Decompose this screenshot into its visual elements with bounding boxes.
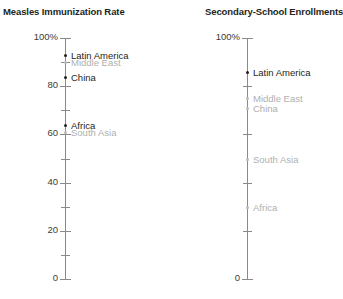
y-axis-tick-label: 0 bbox=[5, 273, 58, 283]
chart-panel-measles-immunization: Measles Immunization Rate 100%806040200L… bbox=[0, 0, 163, 299]
chart-title-measles-immunization: Measles Immunization Rate bbox=[3, 6, 125, 17]
y-axis-tick-label: 80 bbox=[5, 80, 58, 90]
y-axis-tick bbox=[60, 279, 71, 280]
y-axis-tick-label: 0 bbox=[187, 273, 240, 283]
y-axis-minor-tick bbox=[61, 255, 70, 256]
data-point-label: South Asia bbox=[71, 128, 116, 138]
data-point-marker[interactable] bbox=[64, 124, 67, 127]
data-point-marker[interactable] bbox=[246, 107, 249, 110]
y-axis-minor-tick bbox=[243, 183, 252, 184]
y-axis-tick bbox=[60, 38, 71, 39]
data-point-marker[interactable] bbox=[64, 61, 67, 64]
y-axis-minor-tick bbox=[243, 86, 252, 87]
chart-title-secondary-school-enrollments: Secondary-School Enrollments bbox=[205, 6, 343, 17]
data-point-marker[interactable] bbox=[246, 71, 249, 74]
y-axis-tick bbox=[60, 86, 71, 87]
data-point-label: Africa bbox=[253, 203, 277, 213]
data-point-marker[interactable] bbox=[64, 76, 67, 79]
y-axis-minor-tick bbox=[243, 134, 252, 135]
y-axis-tick bbox=[60, 134, 71, 135]
y-axis-tick-label: 20 bbox=[5, 225, 58, 235]
data-point-marker[interactable] bbox=[246, 206, 249, 209]
y-axis-minor-tick bbox=[61, 159, 70, 160]
data-point-marker[interactable] bbox=[246, 158, 249, 161]
y-axis-tick-label: 100% bbox=[5, 32, 58, 42]
y-axis-minor-tick bbox=[61, 207, 70, 208]
y-axis-tick bbox=[242, 38, 253, 39]
data-point-label: Latin America bbox=[253, 68, 311, 78]
y-axis-tick-label: 60 bbox=[5, 128, 58, 138]
chart-panel-secondary-school-enrollments: Secondary-School Enrollments 100%0Latin … bbox=[163, 0, 326, 299]
y-axis-minor-tick bbox=[243, 231, 252, 232]
y-axis-tick-label: 40 bbox=[5, 177, 58, 187]
data-point-label: South Asia bbox=[253, 155, 298, 165]
data-point-marker[interactable] bbox=[246, 97, 249, 100]
data-point-marker[interactable] bbox=[64, 54, 67, 57]
y-axis-minor-tick bbox=[61, 110, 70, 111]
data-point-label: Middle East bbox=[71, 58, 121, 68]
data-point-label: China bbox=[253, 104, 278, 114]
y-axis-tick-label: 100% bbox=[187, 32, 240, 42]
y-axis-tick bbox=[242, 279, 253, 280]
data-point-label: China bbox=[71, 73, 96, 83]
y-axis-tick bbox=[60, 231, 71, 232]
data-point-marker[interactable] bbox=[64, 131, 67, 134]
y-axis-tick bbox=[60, 183, 71, 184]
